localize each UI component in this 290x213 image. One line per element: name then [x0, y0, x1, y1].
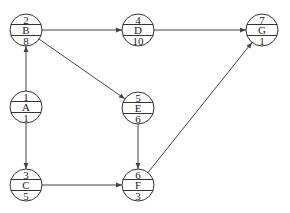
- node-c: 3C5: [10, 169, 42, 202]
- edge-b-to-e: [39, 39, 125, 99]
- node-a: 1A1: [10, 91, 42, 124]
- nodes-layer: 1A12B83C54D105E66F37G1: [10, 14, 278, 202]
- node-d: 4D10: [122, 14, 154, 47]
- node-bottom-label: 6: [135, 113, 141, 125]
- edge-f-to-g: [148, 42, 252, 172]
- node-g: 7G1: [246, 14, 278, 47]
- node-bottom-label: 10: [133, 35, 145, 47]
- network-diagram: 1A12B83C54D105E66F37G1: [0, 0, 290, 213]
- node-bottom-label: 8: [23, 35, 29, 47]
- node-bottom-label: 5: [23, 190, 29, 202]
- node-b: 2B8: [10, 14, 42, 47]
- node-bottom-label: 3: [135, 190, 141, 202]
- node-bottom-label: 1: [259, 35, 265, 47]
- node-bottom-label: 1: [23, 112, 29, 124]
- node-e: 5E6: [122, 92, 154, 125]
- node-f: 6F3: [122, 169, 154, 202]
